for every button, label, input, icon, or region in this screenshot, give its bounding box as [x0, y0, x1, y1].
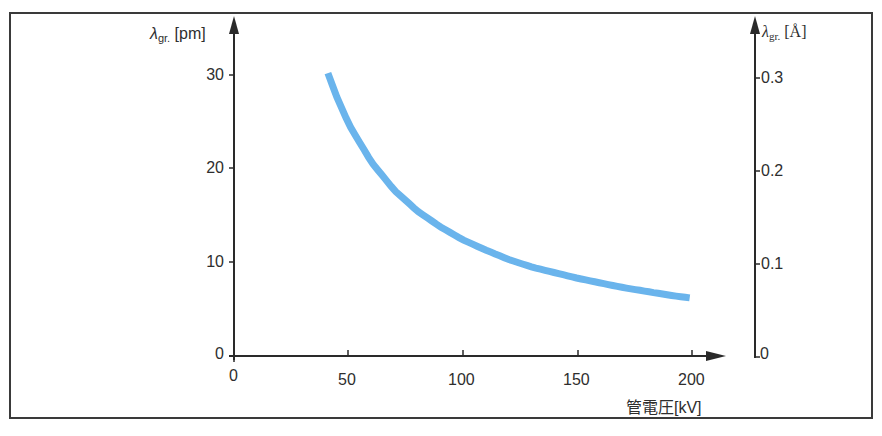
- left-y-axis-arrow-icon: [229, 16, 239, 34]
- x-tick-label: 0: [229, 368, 238, 384]
- right-unit: [Å]: [780, 23, 806, 40]
- lambda-subscript: gr.: [158, 32, 170, 44]
- plot-area: [0, 0, 882, 436]
- x-tick-label: 150: [563, 372, 590, 388]
- right-y-axis-title: λgr. [Å]: [762, 24, 806, 42]
- x-tick-label: 200: [678, 372, 705, 388]
- left-tick-label: 30: [184, 67, 224, 83]
- x-axis-arrow-icon: [706, 351, 726, 361]
- right-tick-label: 0.2: [761, 163, 783, 179]
- lambda-symbol: λ: [762, 23, 769, 40]
- left-tick-label: 10: [184, 254, 224, 270]
- lambda-symbol: λ: [150, 25, 158, 42]
- left-tick-label: 0: [184, 346, 224, 362]
- lambda-subscript: gr.: [769, 30, 780, 42]
- left-unit: [pm]: [170, 25, 206, 42]
- wavelength-curve: [328, 73, 690, 298]
- x-tick-label: 100: [448, 372, 475, 388]
- right-tick-label: 0: [760, 346, 769, 362]
- x-tick-label: 50: [338, 372, 356, 388]
- x-axis-title: 管電圧[kV]: [626, 400, 702, 416]
- left-tick-label: 20: [184, 160, 224, 176]
- right-y-axis-arrow-icon: [750, 16, 760, 34]
- right-tick-label: 0.3: [761, 70, 783, 86]
- right-tick-label: 0.1: [761, 256, 783, 272]
- left-y-axis-title: λgr. [pm]: [150, 26, 206, 44]
